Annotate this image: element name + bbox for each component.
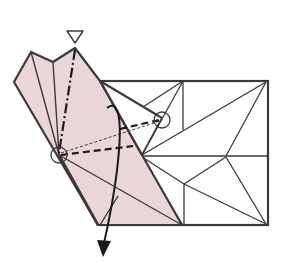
view-marker-triangle-icon [67, 31, 83, 43]
